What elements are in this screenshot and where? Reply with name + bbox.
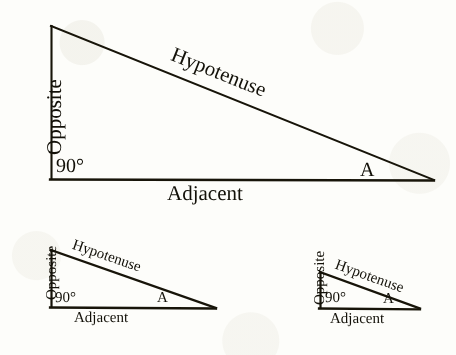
medium-right-angle-label: 90° — [55, 291, 76, 306]
large-adjacent-label: Adjacent — [167, 183, 243, 204]
small-adjacent-side — [319, 309, 420, 310]
small-right-angle-label: 90° — [325, 291, 346, 306]
medium-angle-a-label: A — [157, 291, 168, 306]
small-adjacent-label: Adjacent — [330, 312, 384, 327]
small-angle-a-label: A — [383, 292, 394, 307]
large-opposite-label: Opposite — [44, 79, 65, 155]
figure-page: Opposite Adjacent Hypotenuse 90° A Oppos… — [0, 0, 456, 355]
large-angle-a-label: A — [360, 160, 374, 180]
large-right-angle-label: 90° — [56, 156, 84, 176]
medium-adjacent-side — [50, 308, 216, 309]
medium-adjacent-label: Adjacent — [74, 311, 128, 326]
large-hypotenuse-side — [51, 26, 434, 180]
large-triangle-shape — [50, 26, 434, 181]
